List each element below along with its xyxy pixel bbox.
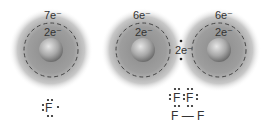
nucleus bbox=[207, 38, 231, 62]
electron-dot bbox=[180, 58, 183, 61]
outer-electron-label: 6e⁻ bbox=[215, 9, 233, 21]
nucleus bbox=[39, 38, 63, 62]
inner-electron-label: 2e⁻ bbox=[135, 26, 153, 38]
shared-pair-label: 2e⁻ bbox=[175, 44, 193, 56]
lewis-f-right: F bbox=[186, 91, 193, 105]
inner-electron-label: 2e⁻ bbox=[44, 26, 62, 38]
electron-dot bbox=[180, 40, 183, 43]
inner-electron-label: 2e⁻ bbox=[215, 26, 233, 38]
fluorine-atom-single: 7e⁻ 2e⁻ bbox=[9, 8, 93, 92]
structural-formula: F — F bbox=[171, 109, 204, 123]
outer-electron-label: 7e⁻ bbox=[44, 9, 62, 21]
outer-electron-label: 6e⁻ bbox=[133, 9, 151, 21]
lewis-f-left: F bbox=[173, 91, 180, 105]
fluorine-atom-left: 6e⁻ 2e⁻ bbox=[101, 8, 185, 92]
f2-bond-diagram: 7e⁻ 2e⁻ 6e⁻ 2e⁻ 6e⁻ 2e⁻ 2e⁻ F F F bbox=[0, 0, 267, 128]
lewis-structure-f: F bbox=[42, 99, 59, 117]
nucleus bbox=[131, 38, 155, 62]
lewis-f-symbol: F bbox=[45, 101, 52, 115]
lewis-structure-f2: F F F — F bbox=[169, 88, 204, 123]
